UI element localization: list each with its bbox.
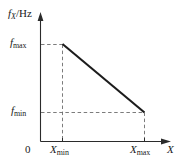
y-axis-label: fX/Hz <box>8 8 32 21</box>
x-tick-label-xmin: Xmin <box>50 144 69 157</box>
xmin-symbol: X <box>50 143 57 155</box>
graph-canvas <box>0 0 182 164</box>
data-line-series <box>63 44 145 113</box>
figure-container: fX/Hz X fmax fmin Xmin Xmax 0 <box>0 0 182 164</box>
x-axis-symbol: X <box>167 143 174 155</box>
fmin-subscript: min <box>14 109 26 118</box>
xmax-subscript: max <box>137 148 150 157</box>
y-axis-unit: Hz <box>19 7 32 19</box>
x-axis-label: X <box>167 144 174 155</box>
y-axis-arrow-icon <box>38 12 44 21</box>
x-tick-label-xmax: Xmax <box>130 144 150 157</box>
xmin-subscript: min <box>57 148 69 157</box>
y-tick-label-fmin: fmin <box>11 105 26 118</box>
fmax-subscript: max <box>13 41 26 50</box>
xmax-symbol: X <box>130 143 137 155</box>
origin-label: 0 <box>25 144 31 155</box>
y-tick-label-fmax: fmax <box>10 37 26 50</box>
